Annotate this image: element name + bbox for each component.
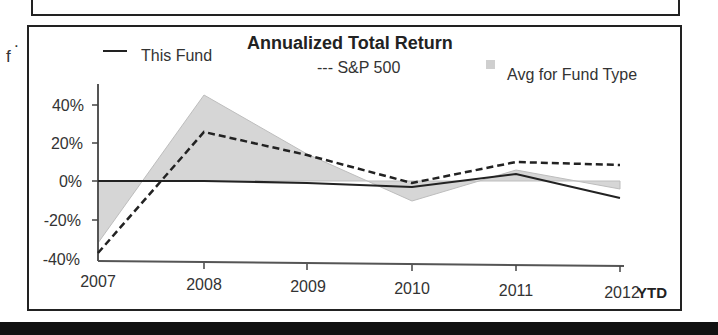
x-tick-label: 2009 — [290, 278, 326, 295]
x-axis — [98, 261, 624, 266]
x-tick-label: 2010 — [394, 280, 430, 297]
legend-avg-swatch-icon — [486, 60, 495, 69]
chart-svg: 40% 20% 0% -20% -40% 2007 2008 2009 2010… — [0, 0, 718, 335]
y-tick-label: 20% — [51, 135, 83, 152]
x-tick-label: 2008 — [186, 276, 222, 293]
y-tick-label: -40% — [43, 251, 80, 268]
legend-avg-fund-type: Avg for Fund Type — [507, 66, 637, 84]
legend-sp500: --- S&P 500 — [317, 59, 400, 77]
x-tick-label: 2011 — [499, 282, 534, 299]
bottom-edge-bar — [0, 322, 718, 335]
ytd-label: YTD — [637, 284, 667, 301]
legend-this-fund: This Fund — [141, 47, 212, 65]
y-tick-label: 40% — [52, 97, 84, 114]
y-tick-label: 0% — [59, 173, 82, 190]
y-tick-label: -20% — [44, 212, 81, 229]
x-tick-label: 2012 — [604, 284, 640, 301]
x-tick-label: 2007 — [80, 273, 116, 290]
